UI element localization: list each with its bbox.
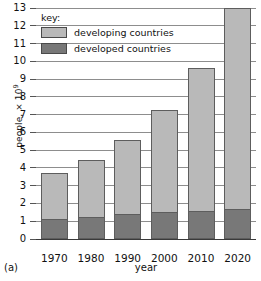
bar-segment-developed-1990: [114, 214, 141, 239]
legend-item-developed: developed countries: [41, 41, 193, 56]
figure-population-stacked-bar-chart: people, × 109 01234567891011121319701980…: [0, 0, 261, 281]
y-tick-10: [30, 61, 36, 62]
y-tick-4: [30, 167, 36, 168]
gridline-4: [36, 167, 256, 168]
gridline-3: [36, 185, 256, 186]
y-tick-5: [30, 150, 36, 151]
y-tick-label-8: 8: [20, 92, 26, 102]
legend-label-developed: developed countries: [74, 43, 171, 54]
y-tick-12: [30, 25, 36, 26]
gridline-7: [36, 114, 256, 115]
bar-segment-developed-1980: [78, 217, 105, 239]
bar-segment-developed-2020: [224, 209, 251, 239]
y-tick-6: [30, 132, 36, 133]
y-tick-0: [30, 239, 36, 240]
y-tick-label-9: 9: [20, 74, 26, 84]
y-tick-2: [30, 203, 36, 204]
legend-swatch-developing: [41, 27, 67, 38]
bar-segment-developed-2010: [188, 211, 215, 239]
y-tick-label-1: 1: [20, 216, 26, 226]
legend: key: developing countries developed coun…: [41, 12, 193, 57]
gridline-9: [36, 79, 256, 80]
y-tick-1: [30, 221, 36, 222]
y-tick-9: [30, 79, 36, 80]
y-tick-label-4: 4: [20, 163, 26, 173]
bar-segment-developing-1970: [41, 173, 68, 218]
bar-segment-developing-1990: [114, 140, 141, 215]
y-tick-7: [30, 114, 36, 115]
y-tick-label-6: 6: [20, 127, 26, 137]
bar-segment-developing-2000: [151, 110, 178, 212]
bar-segment-developed-2000: [151, 212, 178, 239]
y-tick-label-11: 11: [13, 39, 26, 49]
y-tick-label-5: 5: [20, 145, 26, 155]
legend-swatch-developed: [41, 43, 67, 54]
y-tick-label-3: 3: [20, 181, 26, 191]
bar-group-2020: [224, 8, 251, 239]
figure-caption: (a): [4, 262, 18, 273]
y-tick-label-0: 0: [20, 234, 26, 244]
gridline-8: [36, 96, 256, 97]
y-tick-label-10: 10: [13, 56, 26, 66]
y-axis-title-exponent: 9: [12, 84, 20, 88]
y-tick-11: [30, 43, 36, 44]
legend-label-developing: developing countries: [74, 27, 174, 38]
gridline-0: [36, 239, 256, 240]
gridline-5: [36, 150, 256, 151]
gridline-13: [36, 8, 256, 9]
y-tick-label-7: 7: [20, 110, 26, 120]
legend-item-developing: developing countries: [41, 25, 193, 40]
y-tick-13: [30, 8, 36, 9]
y-tick-label-12: 12: [13, 21, 26, 31]
gridline-6: [36, 132, 256, 133]
gridline-2: [36, 203, 256, 204]
y-tick-label-2: 2: [20, 198, 26, 208]
bar-segment-developed-1970: [41, 219, 68, 239]
y-tick-3: [30, 185, 36, 186]
bar-segment-developing-2010: [188, 68, 215, 211]
bar-segment-developing-1980: [78, 160, 105, 217]
y-tick-label-13: 13: [13, 3, 26, 13]
gridline-10: [36, 61, 256, 62]
legend-title: key:: [41, 12, 193, 23]
x-axis-title: year: [36, 262, 256, 273]
bar-segment-developing-2020: [224, 8, 251, 209]
gridline-1: [36, 221, 256, 222]
y-tick-8: [30, 96, 36, 97]
